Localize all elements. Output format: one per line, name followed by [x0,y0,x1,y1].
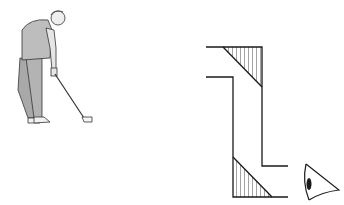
periscope [206,47,288,197]
golfer-torso [22,20,52,60]
eye-icon [305,164,339,200]
golf-club-shaft [55,74,84,118]
golfer-figure [18,11,92,123]
golfer-shoe-front [34,117,50,123]
diagram-canvas [0,0,344,205]
golf-club-head [82,117,92,122]
eye-iris [307,178,312,190]
